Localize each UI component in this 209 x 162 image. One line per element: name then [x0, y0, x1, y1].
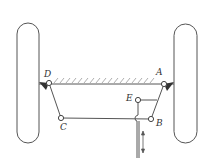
double-arrow-icon	[142, 131, 145, 153]
label-b: B	[156, 119, 163, 128]
right-wheel	[174, 24, 197, 143]
joint-b	[148, 116, 153, 121]
joint-e	[135, 97, 140, 102]
tie-rod-cb	[61, 118, 151, 119]
joint-c	[58, 115, 63, 120]
joint-d	[46, 80, 51, 85]
link-ab	[151, 84, 164, 119]
label-c: C	[60, 123, 67, 132]
label-a: A	[156, 68, 163, 77]
link-dc	[49, 83, 61, 118]
input-rod	[135, 100, 138, 158]
joints	[46, 80, 166, 121]
steering-linkage-diagram: D A E B C	[0, 0, 209, 162]
joint-a	[161, 81, 166, 86]
ground-hatching	[54, 78, 154, 83]
label-e: E	[126, 94, 133, 103]
label-d: D	[44, 70, 51, 79]
left-wheel	[17, 23, 39, 143]
